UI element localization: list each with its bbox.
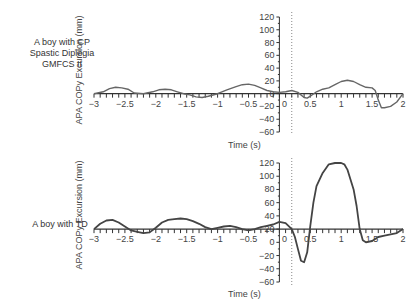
y-tick-label: 60 [264,198,274,208]
y-tick-label: 40 [264,63,274,73]
x-tick-label: 0 [282,99,287,109]
x-tick-label: −1 [212,234,222,244]
x-tick-label: 0.5 [304,234,317,244]
y-tick-label: 0 [269,237,274,247]
x-tick-label: −3 [89,234,99,244]
x-axis-title: Time (s) [228,140,261,150]
x-tick-label: 2 [400,99,405,109]
y-tick-label: −60 [259,127,274,137]
x-tick-label: −2 [151,234,161,244]
x-tick-label: 0 [282,234,287,244]
x-tick-label: −0.5 [240,99,258,109]
x-tick-label: −2 [151,99,161,109]
y-tick-label: 120 [259,158,274,168]
x-tick-label: 0.5 [304,99,317,109]
y-tick-label: 100 [259,171,274,181]
y-axis-title: APA COPy Excursion (mm) [74,161,84,270]
y-tick-label: −20 [259,251,274,261]
y-tick-label: 80 [264,38,274,48]
y-tick-label: 60 [264,50,274,60]
y-tick-label: 20 [264,76,274,86]
y-tick-label: −40 [259,114,274,124]
x-tick-label: 1 [339,99,344,109]
x-tick-label: −1 [212,99,222,109]
x-tick-label: −0.5 [240,234,258,244]
x-axis-title: Time (s) [228,289,261,299]
y-tick-label: 80 [264,184,274,194]
x-tick-label: −2.5 [116,99,134,109]
x-tick-label: −1.5 [178,234,196,244]
x-tick-label: 2 [400,234,405,244]
chart-canvas: 120100806040200−20−40−60−3−2.5−2−1.5−1−0… [0,0,413,304]
x-tick-label: −2.5 [116,234,134,244]
series-line [94,163,403,262]
y-tick-label: 100 [259,25,274,35]
y-tick-label: −20 [259,101,274,111]
y-tick-label: −60 [259,277,274,287]
x-tick-label: −1.5 [178,99,196,109]
y-tick-label: 40 [264,211,274,221]
x-tick-label: 1.5 [366,99,379,109]
x-tick-label: 1 [339,234,344,244]
y-tick-label: −40 [259,264,274,274]
y-tick-label: 120 [259,12,274,22]
y-axis-title: APA COPy Excursion (mm) [74,16,84,125]
x-tick-label: −3 [89,99,99,109]
